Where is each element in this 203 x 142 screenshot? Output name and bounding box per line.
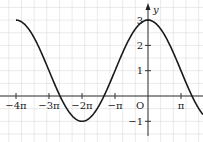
y-tick-label: 3 xyxy=(137,15,143,26)
x-tick-label: −3π xyxy=(38,100,60,111)
grid-lines xyxy=(0,0,203,142)
y-tick-label: −1 xyxy=(128,116,143,127)
x-tick-label: −π xyxy=(108,100,123,111)
origin-label: O xyxy=(136,100,144,111)
x-tick-label: −2π xyxy=(71,100,93,111)
plot-area: −4π−3π−2π−ππ−1123Oy xyxy=(0,0,203,142)
y-tick-label: 1 xyxy=(137,65,143,76)
x-tick-label: π xyxy=(178,100,185,111)
y-tick-label: 2 xyxy=(137,40,143,51)
x-tick-label: −4π xyxy=(5,100,27,111)
y-axis-label: y xyxy=(152,4,159,15)
function-graph: −4π−3π−2π−ππ−1123Oy xyxy=(0,0,203,142)
axes xyxy=(0,3,203,136)
